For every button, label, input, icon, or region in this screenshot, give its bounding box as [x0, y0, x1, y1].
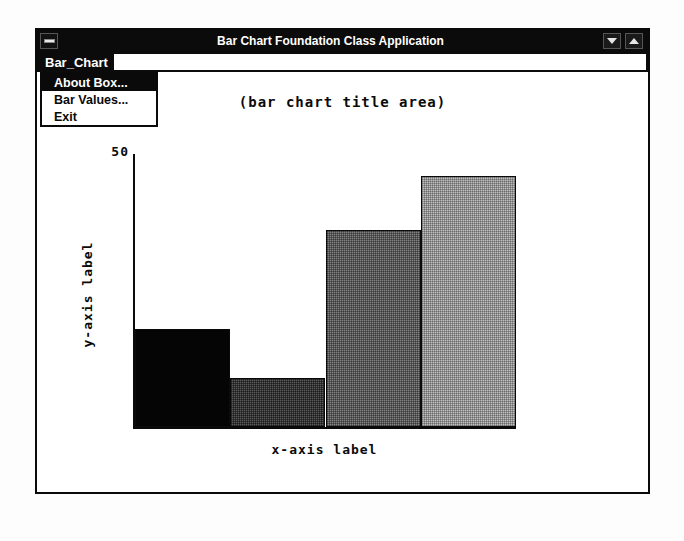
window-menu-button[interactable] — [40, 33, 58, 49]
menu-entry-about-box[interactable]: About Box... — [42, 74, 156, 91]
triangle-up-icon — [629, 38, 639, 44]
maximize-button[interactable] — [625, 33, 643, 49]
bar-chart-dropdown-menu: About Box... Bar Values... Exit — [40, 72, 158, 127]
window-title: Bar Chart Foundation Class Application — [60, 34, 601, 48]
minimize-button[interactable] — [603, 33, 621, 49]
title-bar: Bar Chart Foundation Class Application — [37, 30, 648, 52]
menu-bar-empty-area — [114, 54, 646, 70]
bar-2 — [230, 378, 325, 427]
titlebar-controls — [601, 33, 645, 49]
bars-group — [37, 72, 648, 492]
bar-4 — [421, 176, 516, 427]
menu-entry-bar-values[interactable]: Bar Values... — [42, 91, 156, 108]
menu-item-bar-chart[interactable]: Bar_Chart — [37, 52, 114, 72]
bar-3 — [326, 230, 421, 427]
menu-bar: Bar_Chart — [37, 52, 648, 72]
application-window: Bar Chart Foundation Class Application B… — [35, 28, 650, 494]
triangle-down-icon — [607, 38, 617, 44]
plot-region: 50 y-axis label x-axis label — [37, 72, 648, 492]
window-menu-bar-icon — [44, 39, 55, 43]
menu-entry-exit[interactable]: Exit — [42, 108, 156, 125]
chart-client-area: (bar chart title area) 50 y-axis label x… — [37, 72, 648, 492]
bar-1 — [135, 329, 230, 427]
